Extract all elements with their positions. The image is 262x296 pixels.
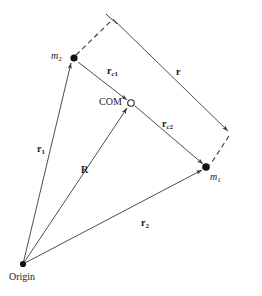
label-vector-r-separation: r: [176, 67, 180, 77]
vector-R: [23, 108, 127, 264]
vector-rc2-line: [135, 106, 203, 164]
label-m1: m1: [210, 172, 221, 182]
vector-R-line: [23, 108, 127, 264]
figure-canvas: m2 m1 COM Origin r1 r2 R rc1 rc2 r: [0, 0, 262, 296]
label-vector-r1: r1: [37, 144, 45, 154]
dashed-line-right-corner-m1: [210, 136, 229, 165]
label-r1-subscript: 1: [41, 148, 45, 156]
vector-r1-line: [23, 63, 71, 264]
vector-r-separation: [113, 19, 228, 131]
tick-mark-top-corner: [106, 14, 117, 24]
vector-rc1: [78, 62, 127, 100]
label-m1-subscript: 1: [217, 176, 221, 184]
com-point-marker: [128, 100, 135, 107]
label-com: COM: [99, 97, 122, 107]
vector-r1: [23, 63, 71, 264]
m1-point-marker: [202, 163, 210, 171]
label-m2-subscript: 2: [58, 55, 62, 63]
point-markers: [20, 54, 210, 267]
origin-point-marker: [20, 261, 26, 267]
vector-r-line: [113, 19, 228, 131]
label-vector-rc1: rc1: [107, 66, 118, 76]
label-vector-rc2: rc2: [162, 119, 173, 129]
label-r2-subscript: 2: [145, 222, 149, 230]
label-m2: m2: [51, 51, 62, 61]
label-rc2-subscript-num: 2: [170, 123, 174, 131]
dashed-line-m2-top-corner: [76, 21, 111, 55]
vector-rc1-line: [78, 62, 127, 100]
vector-r2-line: [23, 170, 202, 264]
label-rc1-subscript-num: 1: [115, 70, 119, 78]
label-origin: Origin: [9, 272, 35, 282]
label-vector-R: R: [81, 165, 88, 175]
label-vector-r2: r2: [141, 218, 149, 228]
m2-point-marker: [70, 54, 77, 61]
vector-r2: [23, 170, 202, 264]
vector-rc2: [135, 106, 203, 164]
construction-lines: [76, 14, 229, 165]
